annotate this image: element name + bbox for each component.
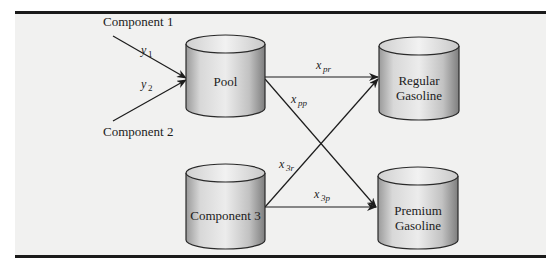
svg-text:pp: pp [297, 98, 308, 108]
svg-text:3p: 3p [320, 193, 331, 203]
pooling-network-diagram: Component 1 Component 2 y 1 y 2 x pr x p… [0, 0, 557, 272]
regular-gasoline-label-line1: Regular [398, 73, 440, 88]
svg-text:pr: pr [322, 64, 332, 74]
component-3-tank: Component 3 [186, 164, 265, 249]
svg-text:2: 2 [148, 83, 153, 93]
component-3-label: Component 3 [190, 208, 260, 223]
flow-label-y2: y 2 [140, 77, 153, 93]
svg-text:y: y [140, 77, 147, 91]
svg-text:1: 1 [148, 49, 153, 59]
regular-gasoline-tank: Regular Gasoline [379, 37, 459, 120]
svg-text:x: x [278, 157, 285, 171]
premium-gasoline-label-line1: Premium [394, 203, 442, 218]
component-1-label: Component 1 [103, 14, 173, 29]
flow-label-x3p: x 3p [313, 187, 331, 203]
flow-label-xpp: x pp [290, 92, 308, 108]
regular-gasoline-label-line2: Gasoline [396, 88, 442, 103]
svg-text:y: y [140, 43, 147, 57]
svg-text:x: x [290, 92, 297, 106]
flow-label-y1: y 1 [140, 43, 153, 59]
svg-text:x: x [313, 187, 320, 201]
flow-label-xpr: x pr [315, 58, 332, 74]
svg-text:x: x [315, 58, 322, 72]
pool-label: Pool [214, 74, 238, 89]
premium-gasoline-tank: Premium Gasoline [378, 167, 458, 249]
premium-gasoline-label-line2: Gasoline [395, 218, 441, 233]
component-2-label: Component 2 [103, 124, 173, 139]
pool-tank: Pool [186, 35, 265, 117]
svg-text:3r: 3r [285, 163, 295, 173]
flow-label-x3r: x 3r [278, 157, 295, 173]
